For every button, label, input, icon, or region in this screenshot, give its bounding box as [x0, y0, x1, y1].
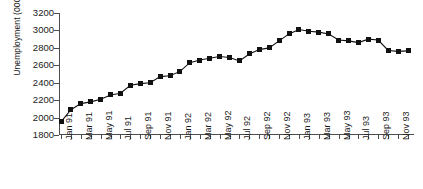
data-point: [406, 48, 411, 53]
data-point: [118, 91, 123, 96]
data-point: [237, 58, 242, 63]
x-axis-tick: [398, 135, 399, 139]
data-point: [356, 40, 361, 45]
data-point: [326, 31, 331, 36]
series-line: [59, 13, 411, 135]
plot-area: [59, 13, 411, 135]
data-point: [386, 48, 391, 53]
data-point: [138, 81, 143, 86]
x-axis-tick: [299, 135, 300, 139]
data-point: [78, 101, 83, 106]
data-point: [316, 30, 321, 35]
x-axis-tick: [160, 135, 161, 139]
y-axis-tick-label: 2000: [20, 113, 54, 123]
data-point: [396, 49, 401, 54]
data-point: [287, 31, 292, 36]
data-point: [177, 69, 182, 74]
data-point: [296, 27, 301, 32]
y-axis-tick-label: 3200: [20, 8, 54, 18]
x-axis-tick: [200, 135, 201, 139]
data-point: [168, 73, 173, 78]
x-axis-tick: [120, 135, 121, 139]
x-axis-tick: [81, 135, 82, 139]
y-axis-tick: [54, 135, 59, 136]
x-axis-tick: [339, 135, 340, 139]
data-point: [59, 119, 64, 124]
x-axis-tick: [259, 135, 260, 139]
x-axis-tick: [140, 135, 141, 139]
data-point: [376, 38, 381, 43]
data-point: [207, 56, 212, 61]
x-axis-tick: [61, 135, 62, 139]
data-point: [197, 58, 202, 63]
y-axis-tick-label: 2200: [20, 95, 54, 105]
data-point: [346, 38, 351, 43]
x-axis-tick: [378, 135, 379, 139]
data-point: [217, 54, 222, 59]
data-point: [306, 29, 311, 34]
data-point: [277, 38, 282, 43]
data-point: [247, 51, 252, 56]
y-axis-tick-label: 1800: [20, 130, 54, 140]
x-axis-tick: [101, 135, 102, 139]
y-axis-tick-label: 2800: [20, 43, 54, 53]
y-axis-tick-label: 2400: [20, 78, 54, 88]
x-axis-tick: [180, 135, 181, 139]
unemployment-line-chart: Unemployment (000s) 18002000220024002600…: [0, 0, 423, 189]
y-axis-tick-label: 2600: [20, 60, 54, 70]
data-point: [227, 55, 232, 60]
data-point: [336, 38, 341, 43]
data-point: [257, 47, 262, 52]
data-point: [366, 37, 371, 42]
data-point: [108, 92, 113, 97]
data-point: [148, 80, 153, 85]
data-point: [98, 97, 103, 102]
y-axis-tick-label: 3000: [20, 25, 54, 35]
x-axis-tick: [319, 135, 320, 139]
x-axis-tick: [358, 135, 359, 139]
x-axis-tick: [239, 135, 240, 139]
data-point: [128, 83, 133, 88]
data-point: [187, 60, 192, 65]
data-point: [158, 74, 163, 79]
y-axis-tick-labels: 18002000220024002600280030003200: [18, 0, 54, 189]
data-point: [267, 45, 272, 50]
x-axis-tick: [279, 135, 280, 139]
x-axis-tick: [220, 135, 221, 139]
data-point: [68, 107, 73, 112]
data-point: [88, 99, 93, 104]
